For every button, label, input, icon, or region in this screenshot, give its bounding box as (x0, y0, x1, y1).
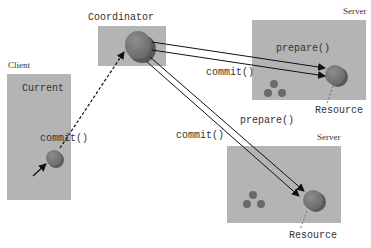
server-bottom-objects-icon (243, 191, 265, 208)
coordinator-label: Coordinator (88, 12, 154, 23)
prepare-bottom-label: prepare() (240, 115, 294, 126)
resource-bottom-leader (300, 211, 307, 230)
resource-top-leader (327, 86, 333, 104)
server-top-caption: Server (343, 6, 367, 16)
client-commit-arrow (33, 164, 46, 176)
server-bottom-caption: Server (317, 132, 341, 142)
prepare-top-label: prepare() (276, 43, 330, 54)
client-caption: Client (8, 60, 30, 70)
server-top-objects-icon (264, 80, 286, 97)
client-label: Current (22, 83, 64, 94)
server-top-resource-icon (325, 65, 348, 87)
diagram-graphics (0, 0, 371, 248)
resource-bottom-label: Resource (289, 230, 337, 241)
server-bottom-resource-icon (303, 190, 326, 212)
commit-bottom-label: commit() (176, 130, 224, 141)
client-sphere-icon (46, 150, 64, 168)
commit-top-label: commit() (206, 67, 254, 78)
resource-top-label: Resource (315, 105, 363, 116)
client-commit-label: commit() (40, 133, 88, 144)
